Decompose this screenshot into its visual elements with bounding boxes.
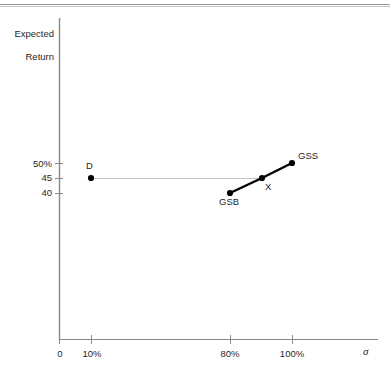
x-tick-label-100: 100% (273, 348, 311, 359)
point-gss (289, 160, 295, 166)
x-tick-label-80: 80% (214, 348, 246, 359)
y-axis-title: Expected Return (6, 16, 54, 74)
point-label-gss: GSS (298, 150, 318, 161)
point-d (88, 175, 94, 181)
y-axis-title-line1: Expected (6, 28, 54, 40)
point-label-x: X (265, 181, 271, 192)
chart-figure: Expected Return 50% 45 40 0 10% 80% 100%… (0, 0, 390, 372)
y-tick-label-45: 45 (20, 172, 52, 183)
x-axis-title-sigma: σ (363, 345, 368, 357)
point-label-d: D (86, 160, 93, 171)
x-tick-label-0: 0 (49, 348, 71, 359)
plot-canvas (0, 0, 390, 372)
y-axis-title-line2: Return (6, 51, 54, 63)
y-tick-label-50: 50% (20, 158, 52, 169)
point-label-gsb: GSB (219, 196, 239, 207)
y-tick-label-40: 40 (20, 187, 52, 198)
x-tick-label-10: 10% (76, 348, 108, 359)
